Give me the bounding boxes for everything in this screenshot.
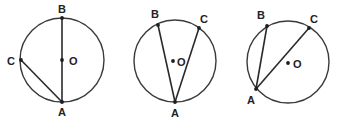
label-o: O [177, 56, 186, 68]
label-b: B [257, 9, 265, 21]
label-a: A [58, 106, 66, 118]
figure-3: ABCO [247, 9, 329, 106]
label-a: A [247, 94, 255, 106]
diagram-canvas: ABCOABCOABCO [0, 0, 340, 123]
circle-outline [134, 20, 216, 102]
label-c: C [7, 55, 15, 67]
point-a [60, 100, 64, 104]
point-o [60, 58, 64, 62]
point-c [307, 26, 311, 30]
chord-ab [158, 25, 175, 102]
point-o [286, 61, 290, 65]
point-b [156, 23, 160, 27]
point-a [254, 87, 258, 91]
circle-diagrams: ABCOABCOABCO [0, 0, 340, 123]
point-b [265, 24, 269, 28]
point-c [19, 58, 23, 62]
figure-2: ABCO [134, 8, 216, 119]
chord-ac [21, 60, 62, 102]
point-a [173, 100, 177, 104]
point-b [60, 16, 64, 20]
label-b: B [58, 3, 66, 15]
label-a: A [171, 107, 179, 119]
label-b: B [151, 8, 159, 20]
label-o: O [293, 58, 302, 70]
point-c [197, 26, 201, 30]
point-o [171, 59, 175, 63]
label-c: C [200, 13, 208, 25]
label-o: O [69, 55, 78, 67]
label-c: C [310, 13, 318, 25]
figure-1: ABCO [7, 3, 104, 118]
